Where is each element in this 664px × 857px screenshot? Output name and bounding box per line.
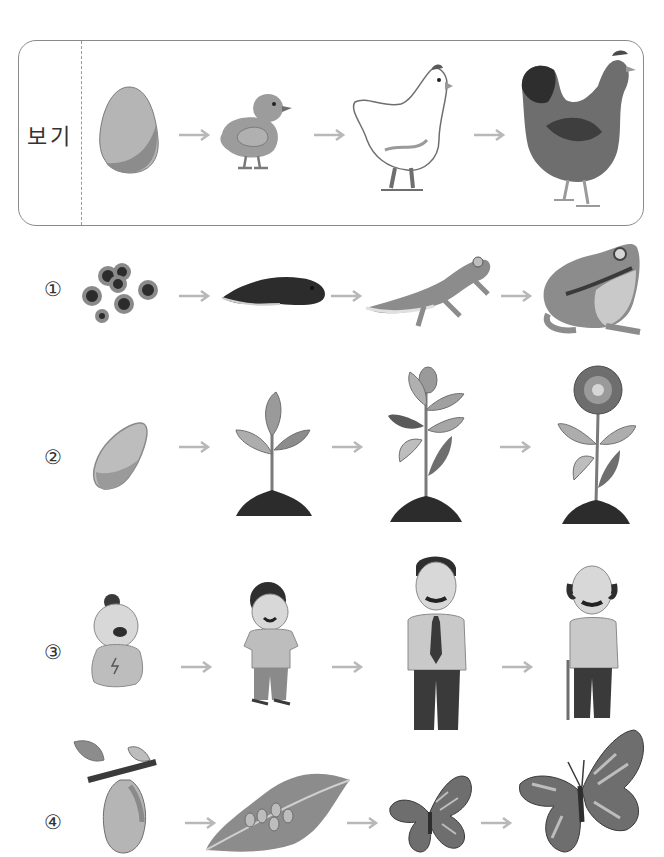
arrow-icon <box>472 128 506 142</box>
hen-icon <box>518 48 638 213</box>
arrow-icon <box>345 816 379 830</box>
froglet-icon <box>364 250 494 332</box>
chick-icon <box>216 88 296 172</box>
arrow-icon <box>500 660 534 674</box>
small-butterfly-icon <box>386 768 476 854</box>
child-icon <box>240 582 302 706</box>
option-2-number[interactable]: ② <box>38 445 68 469</box>
arrow-icon <box>330 440 364 454</box>
arrow-icon <box>312 128 346 142</box>
example-label: 보기 <box>24 118 76 150</box>
tadpole-icon <box>220 270 330 312</box>
example-divider <box>81 41 82 225</box>
sprout-icon <box>232 390 316 518</box>
option-4-number[interactable]: ④ <box>38 810 68 834</box>
flowering-plant-icon <box>556 364 636 528</box>
butterfly-icon <box>516 726 650 854</box>
arrow-icon <box>330 660 364 674</box>
adult-man-icon <box>404 552 470 734</box>
seed-icon <box>90 420 152 492</box>
elderly-man-icon <box>556 560 624 722</box>
young-chicken-icon <box>347 60 459 200</box>
frog-eggs-icon <box>78 262 162 326</box>
arrow-icon <box>177 289 211 303</box>
arrow-icon <box>177 128 211 142</box>
arrow-icon <box>177 440 211 454</box>
frog-icon <box>536 240 648 340</box>
option-1-number[interactable]: ① <box>38 277 68 301</box>
option-3-number[interactable]: ③ <box>38 640 68 664</box>
arrow-icon <box>179 660 213 674</box>
arrow-icon <box>499 289 533 303</box>
budding-plant-icon <box>386 366 466 526</box>
pupa-icon <box>72 736 172 857</box>
arrow-icon <box>498 440 532 454</box>
arrow-icon <box>329 289 363 303</box>
leaf-with-eggs-icon <box>204 760 354 852</box>
baby-icon <box>86 592 152 688</box>
egg-icon <box>96 85 162 175</box>
arrow-icon <box>479 816 513 830</box>
